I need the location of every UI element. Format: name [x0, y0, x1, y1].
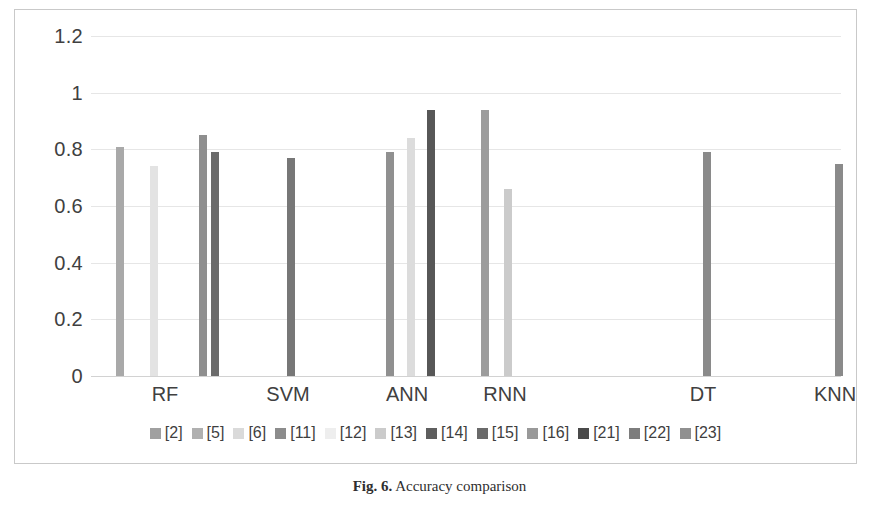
y-axis: 00.20.40.60.811.2 [23, 36, 83, 376]
gridline [91, 93, 841, 94]
legend-swatch-icon [192, 428, 203, 439]
legend-swatch-icon [578, 428, 589, 439]
y-axis-tick-label: 0.6 [27, 196, 83, 216]
x-axis: RFSVMANNRNNDTKNN [91, 382, 841, 410]
legend-label: [2] [165, 425, 183, 441]
legend-swatch-icon [477, 428, 488, 439]
legend-label: [21] [593, 425, 620, 441]
legend-item[interactable]: [6] [233, 425, 266, 441]
legend-label: [22] [644, 425, 671, 441]
bar-knn-22 [835, 164, 843, 377]
figure-frame: 00.20.40.60.811.2 RFSVMANNRNNDTKNN [2][5… [14, 9, 857, 464]
bar-rf-6 [150, 166, 158, 376]
x-axis-label-rf: RF [152, 382, 179, 406]
caption-label: Fig. 6. [353, 478, 393, 494]
legend-item[interactable]: [22] [629, 425, 671, 441]
legend-swatch-icon [375, 428, 386, 439]
x-axis-label-knn: KNN [814, 382, 856, 406]
bar-ann-16 [386, 152, 394, 376]
y-axis-tick-label: 0.8 [27, 139, 83, 159]
legend-item[interactable]: [23] [680, 425, 722, 441]
bar-rnn-24 [504, 189, 512, 376]
plot-area [91, 36, 841, 376]
bar-rf-2 [116, 147, 124, 377]
legend-label: [16] [542, 425, 569, 441]
bar-svm-15 [287, 158, 295, 376]
legend-label: [23] [695, 425, 722, 441]
y-axis-tick-label: 0.2 [27, 309, 83, 329]
legend-label: [12] [340, 425, 367, 441]
legend-label: [11] [290, 425, 316, 441]
legend-label: [5] [207, 425, 225, 441]
y-axis-tick-label: 0.4 [27, 253, 83, 273]
legend-swatch-icon [275, 428, 286, 439]
x-axis-label-ann: ANN [386, 382, 428, 406]
legend-item[interactable]: [14] [426, 425, 468, 441]
caption-text: Accuracy comparison [392, 478, 526, 494]
legend-item[interactable]: [11] [275, 425, 316, 441]
bar-dt-22 [703, 152, 711, 376]
legend-item[interactable]: [15] [477, 425, 519, 441]
legend-label: [13] [390, 425, 417, 441]
y-axis-tick-label: 0 [27, 366, 83, 386]
legend-item[interactable]: [2] [150, 425, 183, 441]
bar-rf-11 [199, 135, 207, 376]
legend-swatch-icon [426, 428, 437, 439]
x-axis-label-dt: DT [690, 382, 717, 406]
legend-swatch-icon [150, 428, 161, 439]
legend-item[interactable]: [5] [192, 425, 225, 441]
y-axis-tick-label: 1.2 [27, 26, 83, 46]
legend-swatch-icon [527, 428, 538, 439]
legend-item[interactable]: [13] [375, 425, 417, 441]
legend-swatch-icon [325, 428, 336, 439]
bar-rf-14 [211, 152, 219, 376]
legend-item[interactable]: [21] [578, 425, 620, 441]
legend-item[interactable]: [16] [527, 425, 569, 441]
legend-label: [14] [441, 425, 468, 441]
gridline [91, 376, 841, 377]
bar-ann-21 [427, 110, 435, 376]
chart-legend: [2][5][6][11][12][13][14][15][16][21][22… [15, 425, 856, 441]
legend-swatch-icon [680, 428, 691, 439]
y-axis-tick-label: 1 [27, 83, 83, 103]
bar-rnn-16 [481, 110, 489, 376]
legend-label: [6] [248, 425, 266, 441]
figure-caption: Fig. 6. Accuracy comparison [0, 478, 879, 495]
legend-item[interactable]: [12] [325, 425, 367, 441]
bar-ann-24 [407, 138, 415, 376]
x-axis-label-rnn: RNN [483, 382, 526, 406]
legend-swatch-icon [629, 428, 640, 439]
x-axis-label-svm: SVM [266, 382, 309, 406]
legend-label: [15] [492, 425, 519, 441]
legend-swatch-icon [233, 428, 244, 439]
gridline [91, 36, 841, 37]
